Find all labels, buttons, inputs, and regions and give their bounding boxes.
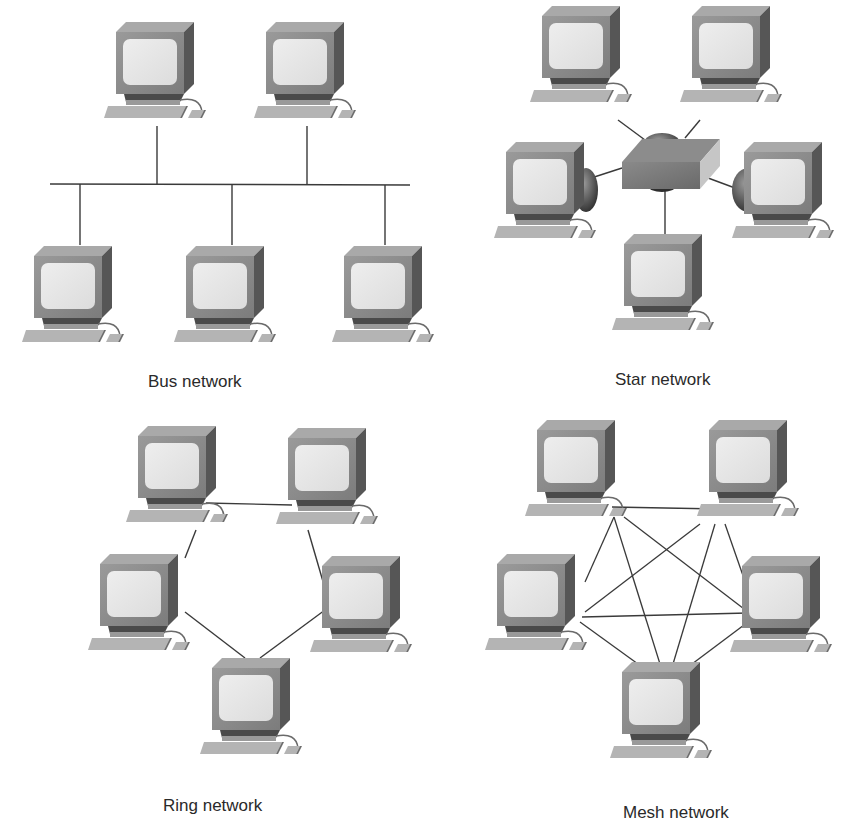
mesh-computer-1 bbox=[525, 420, 627, 516]
star-network-label: Star network bbox=[615, 370, 710, 390]
mesh-cables bbox=[580, 507, 748, 664]
bus-network-panel bbox=[22, 22, 434, 342]
ring-computer-4 bbox=[310, 556, 412, 652]
ring-computer-3 bbox=[88, 554, 190, 650]
star-computer-5 bbox=[612, 234, 714, 330]
bus-computer-4 bbox=[174, 246, 276, 342]
mesh-computer-3 bbox=[485, 554, 587, 650]
bus-cables bbox=[50, 126, 410, 245]
hub-icon bbox=[622, 133, 720, 192]
mesh-computer-5 bbox=[610, 662, 712, 758]
star-computer-3 bbox=[494, 142, 596, 238]
bus-network-label: Bus network bbox=[148, 372, 242, 392]
ring-network-label: Ring network bbox=[163, 796, 262, 816]
star-computer-4 bbox=[732, 142, 834, 238]
ring-cables bbox=[185, 503, 325, 658]
star-computer-1 bbox=[530, 6, 632, 102]
bus-computer-1 bbox=[104, 22, 206, 118]
network-topologies-figure: Bus network Star network Ring network Me… bbox=[0, 0, 851, 840]
mesh-network-label: Mesh network bbox=[623, 803, 729, 823]
mesh-network-panel bbox=[485, 420, 832, 758]
diagram-canvas bbox=[0, 0, 851, 840]
star-computer-2 bbox=[680, 6, 782, 102]
mesh-computer-4 bbox=[730, 556, 832, 652]
bus-computer-5 bbox=[332, 246, 434, 342]
bus-computer-2 bbox=[254, 22, 356, 118]
ring-network-panel bbox=[88, 426, 412, 754]
ring-computer-2 bbox=[276, 428, 378, 524]
ring-computer-1 bbox=[126, 426, 228, 522]
star-network-panel bbox=[494, 6, 834, 330]
ring-computer-5 bbox=[200, 658, 302, 754]
bus-computer-3 bbox=[22, 246, 124, 342]
mesh-computer-2 bbox=[697, 420, 799, 516]
